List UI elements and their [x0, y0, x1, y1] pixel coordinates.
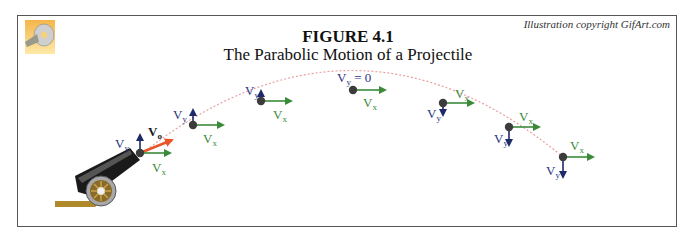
svg-text:Vx: Vx — [363, 95, 377, 112]
cannon-icon — [55, 148, 140, 207]
trajectory-point-4: Vy Vx — [427, 86, 473, 123]
svg-text:Vy: Vy — [546, 163, 560, 180]
trajectory-point-5: Vy Vx — [494, 109, 539, 148]
v0-arrow — [140, 140, 172, 153]
svg-text:Vy = 0: Vy = 0 — [337, 70, 371, 87]
svg-text:Vy: Vy — [245, 83, 259, 100]
svg-text:Vx: Vx — [273, 107, 287, 124]
svg-text:Vx: Vx — [519, 109, 533, 126]
svg-text:Vx: Vx — [203, 131, 217, 148]
trajectory-point-6: Vy Vx — [546, 138, 593, 180]
projectile-diagram: Vy Vo Vx Vy Vx Vy Vx Vy = 0 Vx Vy Vx — [0, 0, 696, 240]
svg-text:Vx: Vx — [570, 138, 584, 155]
svg-text:Vy: Vy — [427, 106, 441, 123]
svg-text:Vy: Vy — [173, 107, 187, 124]
trajectory-point-1: Vy Vx — [173, 107, 223, 148]
svg-text:Vy: Vy — [494, 131, 508, 148]
svg-text:Vx: Vx — [152, 160, 166, 177]
svg-text:Vx: Vx — [455, 86, 469, 103]
svg-text:Vo: Vo — [148, 124, 162, 141]
trajectory-apex: Vy = 0 Vx — [337, 70, 385, 112]
trajectory-point-2: Vy Vx — [245, 83, 291, 124]
svg-text:Vy: Vy — [115, 136, 129, 153]
